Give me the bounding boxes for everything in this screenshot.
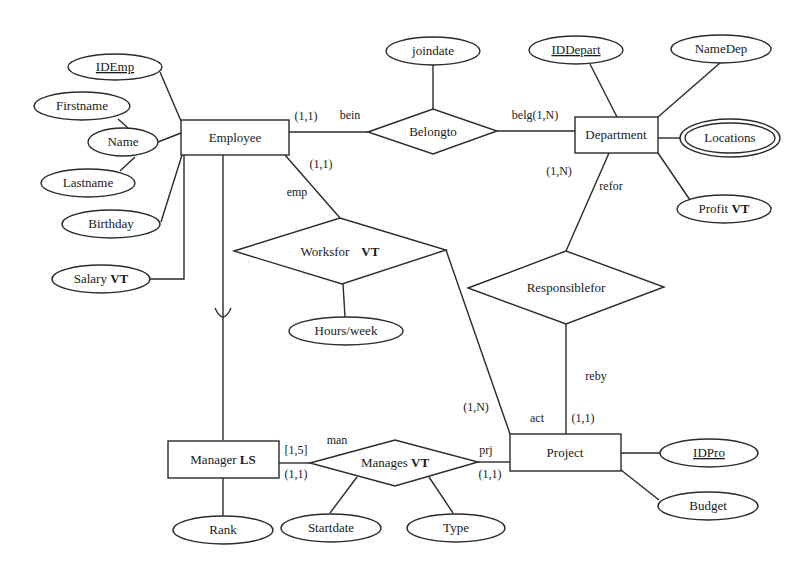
relationship-responsiblefor[interactable]: Responsiblefor [468,251,664,324]
role-refor: refor [599,179,622,193]
attribute-salary[interactable]: Salary VT [52,265,150,293]
role-belg: belg(1,N) [512,108,558,122]
attribute-type[interactable]: Type [407,514,505,542]
attribute-label: Birthday [88,216,134,231]
attribute-idemp[interactable]: IDEmp [68,54,162,80]
attribute-name[interactable]: Name [88,128,158,156]
cardinality-project-manages: (1,1) [479,467,502,481]
role-reby: reby [585,369,606,383]
attribute-label: Name [107,134,138,149]
attribute-label: IDDepart [551,42,600,57]
relationship-worksfor[interactable]: WorksforVT [234,218,446,284]
attribute-locations-multivalued[interactable]: Locations [680,119,780,157]
attribute-idpro[interactable]: IDPro [660,439,758,467]
attribute-firstname[interactable]: Firstname [34,92,130,120]
relationship-belongto[interactable]: Belongto [368,109,497,154]
role-act: act [530,411,545,425]
attribute-label: Budget [689,498,727,513]
attribute-label: Profit VT [699,201,750,216]
er-diagram: Employee Department Project Manager LS B… [0,0,810,577]
attribute-birthday[interactable]: Birthday [62,210,160,238]
cardinality-manager-manages: (1,1) [285,467,308,481]
relationship-label: Manages VT [361,455,430,470]
attribute-joindate[interactable]: joindate [386,37,480,65]
attribute-label: Salary VT [74,271,129,286]
cardinality-proj-worksfor: (1,N) [463,400,489,414]
attribute-budget[interactable]: Budget [658,492,758,520]
entity-label: Employee [209,130,262,145]
entity-manager[interactable]: Manager LS [168,441,279,478]
attribute-label: joindate [411,43,454,58]
relationship-label: Belongto [409,124,457,139]
role-emp: emp [287,185,308,199]
relationship-label: Responsiblefor [527,280,606,295]
attribute-lastname[interactable]: Lastname [41,169,135,197]
entity-department[interactable]: Department [575,117,658,153]
entity-project[interactable]: Project [510,434,621,471]
relationship-label: WorksforVT [301,244,380,259]
attribute-label: Lastname [63,175,114,190]
attribute-profit[interactable]: Profit VT [677,195,771,223]
attribute-iddepart[interactable]: IDDepart [529,36,623,64]
attribute-label: Type [443,520,469,535]
role-man: man [327,433,348,447]
entity-label: Department [585,127,647,142]
attribute-label: Locations [704,130,755,145]
attribute-startdate[interactable]: Startdate [281,514,381,542]
role-bein: bein [340,108,361,122]
cardinality-dept-responsible: (1,N) [546,164,572,178]
cardinality-manager-time: [1,5] [285,443,308,457]
cardinality-emp-belongto: (1,1) [295,109,318,123]
attribute-hours-week[interactable]: Hours/week [289,317,403,345]
attribute-label: Startdate [308,520,354,535]
cardinality-emp-worksfor: (1,1) [310,157,333,171]
attribute-label: IDPro [693,445,725,460]
attribute-label: NameDep [695,41,748,56]
attribute-label: IDEmp [96,59,134,74]
attribute-rank[interactable]: Rank [173,516,273,544]
role-prj: prj [479,443,492,457]
attribute-label: Rank [209,522,237,537]
entity-label: Manager LS [190,452,255,467]
entity-employee[interactable]: Employee [181,120,289,155]
cardinality-proj-responsible: (1,1) [572,411,595,425]
entity-label: Project [547,445,584,460]
attribute-label: Firstname [56,98,108,113]
attribute-namedep[interactable]: NameDep [671,35,771,63]
attribute-label: Hours/week [315,323,378,338]
